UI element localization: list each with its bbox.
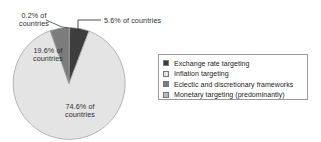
slice-label-exchange-rate-targeting: 5.6% of countries [104,17,190,25]
pie-chart-figure: 0.2% of countries 19.6% of countries 74.… [0,0,321,142]
slice-label-monetary-line2: countries [65,110,95,119]
legend-item-inflation-targeting: Inflation targeting [163,69,307,79]
legend-label-monetary-targeting: Monetary targeting (predominantly) [174,90,285,99]
legend-label-inflation-targeting: Inflation targeting [174,69,229,78]
slice-label-inflation-targeting: 0.2% of countries [8,12,60,29]
legend-label-eclectic-frameworks: Eclectic and discretionary frameworks [174,80,293,89]
slice-label-monetary-targeting: 74.6% of countries [47,103,113,120]
slice-label-eclectic-frameworks: 19.6% of countries [16,47,80,64]
legend-item-exchange-rate-targeting: Exchange rate targeting [163,58,307,68]
legend-swatch-monetary-targeting [163,92,169,98]
legend-item-eclectic-frameworks: Eclectic and discretionary frameworks [163,79,307,89]
slice-label-eclectic-line2: countries [33,54,63,63]
slice-label-inflation-line2: countries [19,19,49,28]
chart-legend: Exchange rate targeting Inflation target… [158,54,308,100]
legend-label-exchange-rate-targeting: Exchange rate targeting [174,59,249,68]
legend-swatch-eclectic-frameworks [163,81,169,87]
legend-swatch-exchange-rate-targeting [163,60,169,66]
legend-item-monetary-targeting: Monetary targeting (predominantly) [163,90,307,100]
legend-swatch-inflation-targeting [163,71,169,77]
